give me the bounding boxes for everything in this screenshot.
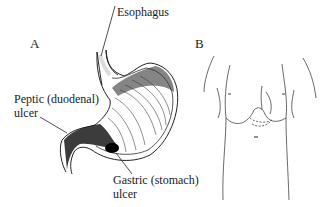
esophagus-label: Esophagus [117,5,169,19]
gastric-ulcer-label-line2: ulcer [113,187,137,201]
stomach-illustration [40,6,178,174]
panel-b-label: B [195,36,204,52]
panel-a-label: A [30,36,39,52]
torso-illustration [204,56,316,200]
peptic-ulcer-label-line1: Peptic (duodenal) [14,92,99,106]
peptic-ulcer-label-line2: ulcer [14,106,38,120]
gastric-ulcer-label-line1: Gastric (stomach) [113,173,199,187]
